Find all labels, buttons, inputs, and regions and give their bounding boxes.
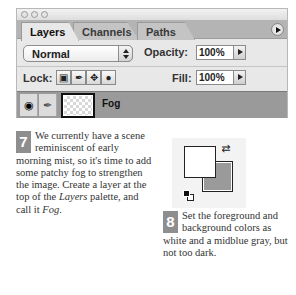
- step-number-badge: 7: [16, 131, 31, 153]
- opacity-input[interactable]: 100%: [196, 45, 234, 60]
- italic-layers: Layers: [59, 191, 88, 202]
- step-text: Set the foreground and background colors…: [163, 210, 288, 258]
- paintbrush-icon[interactable]: ✒: [39, 94, 57, 116]
- palette-titlebar: [17, 9, 287, 20]
- fill-slider-arrow-icon[interactable]: [233, 70, 246, 85]
- lock-image-pixels-icon[interactable]: ✒: [71, 70, 86, 85]
- layer-thumbnail[interactable]: [61, 93, 95, 118]
- step-text-end: .: [59, 204, 62, 215]
- default-colors-icon[interactable]: [183, 190, 190, 197]
- blend-opacity-row: Normal Opacity: 100%: [17, 40, 287, 66]
- minimize-button[interactable]: [31, 11, 38, 18]
- lock-label: Lock:: [23, 72, 52, 84]
- lock-position-icon[interactable]: ✥: [86, 70, 101, 85]
- layer-row-fog[interactable]: ◉ ✒ Fog: [17, 91, 287, 118]
- blend-mode-select[interactable]: Normal: [23, 45, 133, 62]
- foreground-color-swatch[interactable]: [184, 146, 216, 178]
- zoom-button[interactable]: [41, 11, 48, 18]
- blend-mode-stepper-icon[interactable]: [118, 45, 133, 62]
- fill-input[interactable]: 100%: [196, 70, 234, 85]
- tab-channels[interactable]: Channels: [73, 22, 139, 40]
- eye-icon[interactable]: ◉: [20, 94, 38, 116]
- lock-fill-row: Lock: ▣ ✒ ✥ ● Fill: 100%: [17, 70, 287, 88]
- tab-layers[interactable]: Layers: [21, 22, 79, 41]
- opacity-slider-arrow-icon[interactable]: [233, 45, 246, 60]
- italic-fog: Fog: [42, 204, 59, 215]
- step-7: 7 We currently have a scene reminiscent …: [16, 130, 156, 216]
- blend-mode-value: Normal: [32, 48, 70, 60]
- tab-paths[interactable]: Paths: [137, 22, 195, 40]
- transparent-checkerboard: [64, 96, 92, 115]
- color-swatches: ⇅: [172, 138, 246, 208]
- step-number-badge: 8: [163, 211, 178, 233]
- fill-label: Fill:: [172, 72, 192, 84]
- divider: [17, 66, 287, 67]
- layers-palette: Layers Channels Paths Normal Opacity: 10…: [16, 8, 288, 118]
- step-8: 8 Set the foreground and background colo…: [163, 210, 293, 259]
- palette-tabs: Layers Channels Paths: [17, 20, 287, 39]
- lock-all-icon[interactable]: ●: [101, 70, 116, 85]
- opacity-label: Opacity:: [144, 46, 188, 58]
- close-button[interactable]: [21, 11, 28, 18]
- palette-menu-arrow-icon[interactable]: [271, 23, 284, 36]
- lock-transparent-pixels-icon[interactable]: ▣: [56, 70, 71, 85]
- swap-colors-icon[interactable]: ⇅: [219, 144, 232, 153]
- layer-name: Fog: [102, 98, 120, 109]
